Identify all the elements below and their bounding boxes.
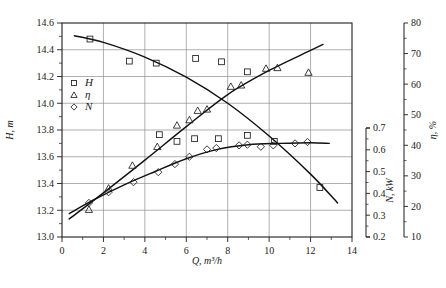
- svg-text:0.3: 0.3: [373, 210, 386, 221]
- svg-text:4: 4: [142, 245, 147, 256]
- y-axis-head-title: H, m: [4, 120, 15, 140]
- svg-text:2: 2: [101, 245, 106, 256]
- svg-text:13.0: 13.0: [37, 231, 55, 242]
- svg-text:40: 40: [411, 140, 421, 151]
- svg-text:0.5: 0.5: [373, 166, 386, 177]
- svg-text:0: 0: [60, 245, 65, 256]
- svg-text:13.2: 13.2: [37, 205, 55, 216]
- svg-text:60: 60: [411, 79, 421, 90]
- svg-text:14.4: 14.4: [37, 44, 55, 55]
- y-axis-power-title: N, kW: [384, 177, 395, 204]
- svg-text:8: 8: [225, 245, 230, 256]
- svg-text:14: 14: [347, 245, 357, 256]
- svg-text:13.8: 13.8: [37, 124, 55, 135]
- svg-text:10: 10: [411, 231, 421, 242]
- svg-text:12: 12: [306, 245, 316, 256]
- legend-label-H: H: [84, 76, 94, 88]
- svg-text:14.0: 14.0: [37, 98, 55, 109]
- pump-performance-chart: 02468101214 13.013.213.413.613.814.014.2…: [0, 0, 446, 288]
- svg-text:10: 10: [264, 245, 274, 256]
- legend-label-N: N: [84, 100, 93, 112]
- x-axis-title: Q, m³/h: [192, 255, 222, 266]
- svg-text:0.2: 0.2: [373, 231, 386, 242]
- y-axis-efficiency-title: η, %: [427, 121, 438, 139]
- svg-text:13.6: 13.6: [37, 151, 55, 162]
- svg-text:70: 70: [411, 48, 421, 59]
- svg-text:30: 30: [411, 170, 421, 181]
- svg-text:6: 6: [184, 245, 189, 256]
- svg-text:13.4: 13.4: [37, 178, 55, 189]
- svg-text:0.7: 0.7: [373, 122, 386, 133]
- svg-text:0.6: 0.6: [373, 144, 386, 155]
- svg-text:14.2: 14.2: [37, 71, 55, 82]
- svg-text:80: 80: [411, 17, 421, 28]
- svg-text:20: 20: [411, 201, 421, 212]
- svg-text:14.6: 14.6: [37, 17, 55, 28]
- legend-label-eta: η: [85, 88, 90, 100]
- svg-text:50: 50: [411, 109, 421, 120]
